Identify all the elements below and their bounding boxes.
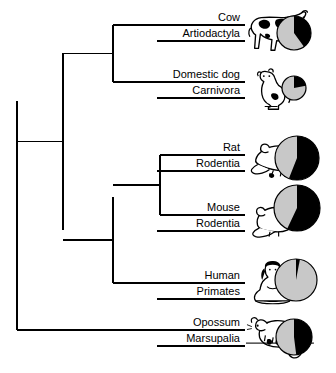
human-order-name: Primates (197, 285, 240, 297)
phylogenetic-tree-figure: CowArtiodactylaDomestic dogCarnivoraRatR… (0, 0, 336, 373)
cow-pie-chart (277, 16, 311, 50)
opossum-pie-chart (276, 319, 312, 355)
human-common-name: Human (205, 269, 240, 281)
mouse-order-name: Rodentia (196, 217, 240, 229)
cow-order-name: Artiodactyla (183, 27, 240, 39)
opossum-common-name: Opossum (193, 316, 240, 328)
rat-order-name: Rodentia (196, 157, 240, 169)
pie-charts-layer (0, 0, 336, 373)
mouse-common-name: Mouse (207, 201, 240, 213)
rat-pie-chart (275, 136, 319, 180)
human-pie-chart (275, 259, 317, 301)
domestic-dog-common-name: Domestic dog (173, 68, 240, 80)
mouse-pie-chart (274, 185, 320, 231)
rat-common-name: Rat (223, 141, 240, 153)
opossum-pie-filled-slice (294, 319, 312, 355)
opossum-order-name: Marsupalia (186, 332, 240, 344)
cow-common-name: Cow (218, 11, 240, 23)
domestic-dog-order-name: Carnivora (192, 84, 240, 96)
domestic-dog-pie-chart (282, 76, 306, 100)
